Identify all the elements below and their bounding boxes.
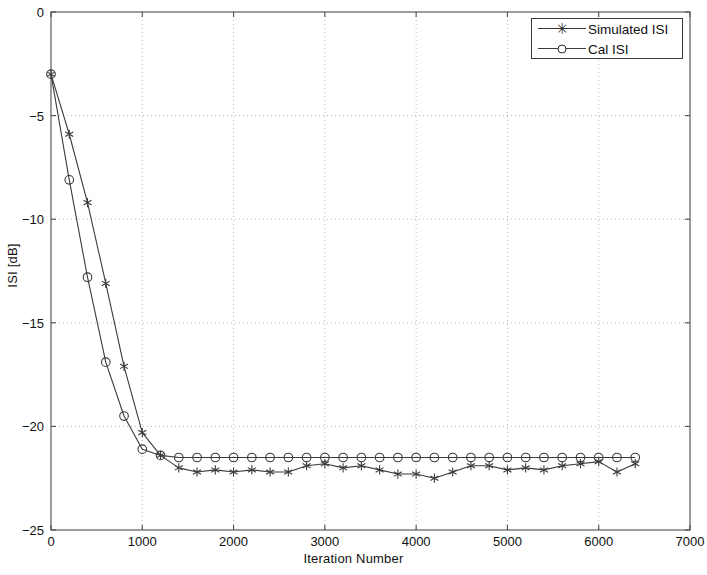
figure-canvas: Iteration Number ISI [dB] 01000200030004…: [0, 0, 707, 575]
star-marker: [175, 463, 183, 472]
plot-svg: [0, 0, 707, 575]
x-tick-label: 5000: [493, 534, 522, 549]
legend: ✳ Simulated ISI Cal ISI: [531, 18, 683, 59]
y-tick-label: −5: [29, 108, 44, 123]
star-marker-icon: ✳: [556, 22, 569, 37]
y-tick-label: 0: [37, 5, 44, 20]
star-marker: [376, 465, 384, 474]
axes-frame: [51, 12, 690, 530]
x-tick-label: 0: [47, 534, 54, 549]
y-tick-label: −15: [22, 315, 44, 330]
legend-sample-star: ✳: [536, 19, 588, 39]
star-marker: [102, 279, 110, 288]
circle-marker-icon: [558, 45, 567, 54]
x-tick-label: 6000: [584, 534, 613, 549]
y-axis-label: ISI [dB]: [5, 226, 20, 306]
x-axis-label: Iteration Number: [0, 551, 707, 566]
gridlines: [51, 12, 690, 530]
star-marker: [613, 467, 621, 476]
star-marker: [449, 467, 457, 476]
legend-sample-circle: [536, 39, 588, 59]
y-tick-label: −10: [22, 212, 44, 227]
x-tick-label: 3000: [310, 534, 339, 549]
y-tick-label: −20: [22, 419, 44, 434]
x-tick-label: 4000: [402, 534, 431, 549]
star-marker: [120, 362, 128, 371]
star-marker: [65, 130, 73, 139]
star-marker: [430, 474, 438, 483]
star-marker: [84, 198, 92, 207]
legend-entry-cal-isi: Cal ISI: [532, 39, 682, 59]
x-tick-label: 7000: [676, 534, 705, 549]
legend-label-cal-isi: Cal ISI: [588, 42, 629, 57]
x-tick-label: 2000: [219, 534, 248, 549]
series-cal-isi: [47, 70, 640, 462]
x-tick-label: 1000: [128, 534, 157, 549]
legend-entry-simulated-isi: ✳ Simulated ISI: [532, 19, 682, 39]
y-tick-label: −25: [22, 523, 44, 538]
series-simulated-isi: [47, 70, 639, 483]
legend-label-simulated-isi: Simulated ISI: [588, 22, 668, 37]
tick-marks: [51, 12, 690, 530]
